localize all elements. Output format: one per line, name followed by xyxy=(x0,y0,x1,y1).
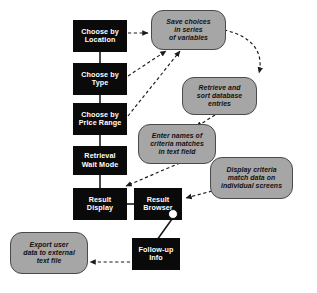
node-choose-location[interactable]: Choose by Location xyxy=(73,20,127,52)
diagram-canvas: Choose by Location Choose by Type Choose… xyxy=(0,0,317,293)
note-save-choices-line2: in series xyxy=(163,26,213,34)
node-choose-price-range[interactable]: Choose by Price Range xyxy=(73,103,127,135)
node-retrieval-wait-line2: Wait Mode xyxy=(79,161,122,169)
node-choose-type[interactable]: Choose by Type xyxy=(73,63,127,95)
note-display-criteria-line1: Display criteria xyxy=(218,166,285,174)
note-save-choices-line1: Save choices xyxy=(163,18,213,26)
note-retrieve-sort-line1: Retrieve and xyxy=(194,84,245,92)
note-display-criteria-line2: match data on xyxy=(218,174,285,182)
note-enter-names-line2: criteria matches xyxy=(147,140,207,148)
node-result-display[interactable]: Result Display xyxy=(73,188,127,220)
connector-enter-to-result xyxy=(126,163,180,186)
connector-junction-to-followup xyxy=(157,219,172,240)
connector-criteria-to-browser xyxy=(186,191,212,198)
connector-price-to-save xyxy=(128,51,180,116)
note-enter-names-line3: in text field xyxy=(147,148,207,156)
note-export-line2: data to external xyxy=(20,249,78,257)
node-result-display-line2: Display xyxy=(84,204,116,212)
note-enter-names-line1: Enter names of xyxy=(147,132,207,140)
note-display-criteria[interactable]: Display criteria match data on individua… xyxy=(210,157,293,199)
note-retrieve-sort-line2: sort database xyxy=(194,92,245,100)
connector-type-to-save xyxy=(128,51,166,76)
note-export-line1: Export user xyxy=(20,241,78,249)
browser-junction-node[interactable] xyxy=(168,209,178,219)
node-follow-up-info[interactable]: Follow-up Info xyxy=(132,238,180,270)
note-enter-names[interactable]: Enter names of criteria matches in text … xyxy=(138,124,216,164)
node-choose-price-line2: Price Range xyxy=(76,119,125,127)
note-export-line3: text file xyxy=(20,257,78,265)
node-follow-up-line2: Info xyxy=(136,254,177,262)
note-save-choices[interactable]: Save choices in series of variables xyxy=(151,10,226,50)
note-save-choices-line3: of variables xyxy=(163,34,213,42)
node-choose-location-line2: Location xyxy=(78,36,122,44)
note-display-criteria-line3: individual screens xyxy=(218,182,285,190)
connector-save-to-retrieve xyxy=(224,30,260,73)
note-retrieve-sort-line3: entries xyxy=(194,100,245,108)
note-retrieve-sort[interactable]: Retrieve and sort database entries xyxy=(182,77,257,115)
node-retrieval-wait-mode[interactable]: Retrieval Wait Mode xyxy=(73,146,127,175)
node-choose-type-line2: Type xyxy=(78,79,122,87)
note-export-user-data[interactable]: Export user data to external text file xyxy=(10,232,88,274)
